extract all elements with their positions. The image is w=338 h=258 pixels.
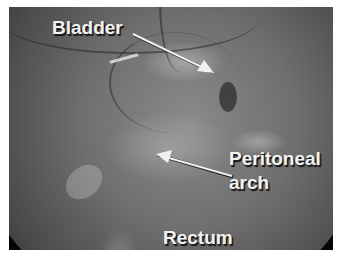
label-arch: arch — [229, 173, 269, 192]
bladder-arrow-icon — [133, 34, 214, 73]
label-peritoneal: Peritoneal — [229, 149, 321, 168]
peritoneal-arch-arrow-icon — [156, 150, 233, 177]
label-rectum: Rectum — [163, 228, 233, 247]
label-bladder: Bladder — [52, 18, 123, 37]
annotation-arrows — [0, 0, 338, 258]
